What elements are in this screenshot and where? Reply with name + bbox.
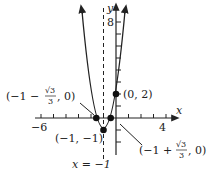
root-right-label: (−1 + √3 3 , 0)	[139, 140, 206, 160]
intercept-label: (0, 2)	[123, 88, 153, 101]
x-axis-label: x	[176, 104, 183, 117]
svg-text:(−1 +: (−1 +	[139, 144, 172, 157]
vertex-label: (−1, −1)	[55, 132, 103, 145]
tick-label-neg6: −6	[31, 121, 47, 134]
svg-text:3: 3	[48, 97, 53, 106]
svg-text:√3: √3	[45, 86, 55, 95]
svg-text:3: 3	[179, 151, 184, 160]
tick-label-4: 4	[159, 121, 166, 134]
y-axis-label: y	[106, 2, 114, 15]
svg-text:, 0): , 0)	[57, 90, 75, 103]
symmetry-label: x = −1	[72, 158, 111, 171]
root-left-label: (−1 − √3 3 , 0)	[6, 86, 75, 106]
parabola-chart: x y −6 4 8 (0, 2) (−1, −1) x = −1 (−1 − …	[0, 0, 208, 177]
root-right-point	[107, 115, 114, 122]
leader-right	[120, 124, 142, 145]
leader-left	[80, 103, 94, 115]
svg-text:(−1 −: (−1 −	[6, 90, 39, 103]
root-left-point	[93, 115, 100, 122]
svg-text:, 0): , 0)	[188, 144, 206, 157]
svg-text:√3: √3	[176, 140, 186, 149]
y-intercept-point	[113, 91, 120, 98]
tick-label-8: 8	[107, 16, 114, 29]
